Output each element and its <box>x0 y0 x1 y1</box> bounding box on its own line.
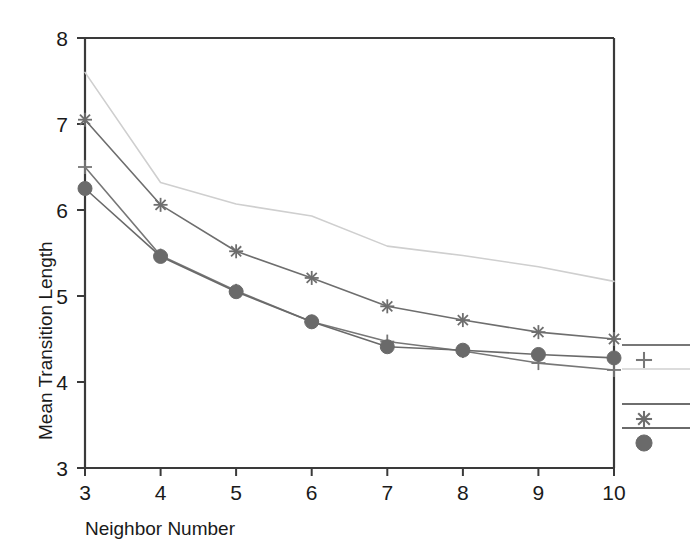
data-point-plus-marker <box>636 352 652 368</box>
x-tick-label: 5 <box>230 481 242 504</box>
data-point-asterisk-marker <box>154 198 168 212</box>
x-tick-label: 8 <box>457 481 469 504</box>
data-point-circle-marker <box>78 182 92 196</box>
data-point-circle-marker <box>229 285 243 299</box>
y-tick-label: 4 <box>56 371 68 394</box>
series-line <box>85 167 614 370</box>
data-series-layer <box>78 72 621 377</box>
y-tick-label: 7 <box>56 113 68 136</box>
y-tick-labels: 8 7 6 5 4 3 <box>56 27 68 480</box>
data-point-circle-marker <box>607 351 621 365</box>
line-chart: 8 7 6 5 4 3 3 4 5 6 7 8 9 10 Mean Transi… <box>0 0 690 559</box>
series-series-circle <box>78 182 621 365</box>
legend-item[interactable] <box>622 345 690 368</box>
data-point-circle-marker <box>456 343 470 357</box>
y-tick-label: 8 <box>56 27 68 50</box>
series-series-asterisk <box>78 113 621 346</box>
data-point-circle-marker <box>305 315 319 329</box>
data-point-circle-marker <box>636 435 652 451</box>
x-axis-title: Neighbor Number <box>85 518 236 539</box>
x-tick-label: 7 <box>381 481 393 504</box>
data-point-asterisk-marker <box>636 411 652 427</box>
data-point-asterisk-marker <box>305 271 319 285</box>
y-tick-label: 3 <box>56 457 68 480</box>
legend-item[interactable] <box>622 404 690 427</box>
legend-item[interactable] <box>622 428 690 451</box>
data-point-circle-marker <box>154 249 168 263</box>
data-point-asterisk-marker <box>78 113 92 127</box>
x-tick-label: 9 <box>533 481 545 504</box>
y-axis-ticks <box>77 38 85 468</box>
x-tick-label: 4 <box>155 481 167 504</box>
x-tick-label: 10 <box>602 481 625 504</box>
data-point-asterisk-marker <box>456 313 470 327</box>
chart-legend[interactable] <box>622 345 690 451</box>
data-point-asterisk-marker <box>380 299 394 313</box>
series-line <box>85 120 614 339</box>
x-axis-ticks <box>85 468 614 476</box>
x-tick-label: 6 <box>306 481 318 504</box>
series-series-plus <box>78 160 621 377</box>
data-point-asterisk-marker <box>229 244 243 258</box>
y-tick-label: 6 <box>56 199 68 222</box>
data-point-circle-marker <box>531 347 545 361</box>
data-point-asterisk-marker <box>531 325 545 339</box>
data-point-circle-marker <box>380 340 394 354</box>
x-tick-labels: 3 4 5 6 7 8 9 10 <box>79 481 626 504</box>
chart-page: 8 7 6 5 4 3 3 4 5 6 7 8 9 10 Mean Transi… <box>0 0 690 559</box>
y-tick-label: 5 <box>56 285 68 308</box>
x-tick-label: 3 <box>79 481 91 504</box>
data-point-asterisk-marker <box>607 332 621 346</box>
y-axis-title: Mean Transition Length <box>35 241 56 440</box>
